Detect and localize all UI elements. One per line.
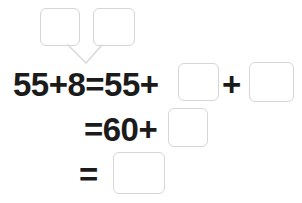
equation-row3-box-1[interactable] [113,152,165,194]
number-bond-connector-icon [58,44,114,66]
equation-row1-lhs: 55+8=55+ [13,68,159,101]
worksheet-canvas: 55+8=55+ + =60+ = [0,0,302,203]
equation-row2-box-1[interactable] [168,108,208,147]
decomposition-box-2[interactable] [93,8,135,46]
equation-row1-box-2[interactable] [249,62,294,102]
decomposition-box-1[interactable] [40,8,80,46]
equation-row3-lhs: = [79,158,98,191]
equation-row2-lhs: =60+ [84,113,157,146]
equation-row1-box-1[interactable] [178,63,219,101]
equation-row1-plus-operator: + [222,68,241,101]
